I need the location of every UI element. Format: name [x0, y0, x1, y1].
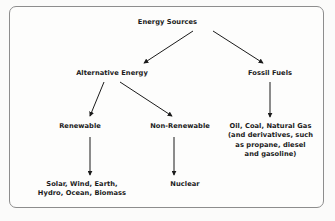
renewable-detail-line-1: Solar, Wind, Earth, — [24, 180, 140, 189]
diagram-canvas: Energy Sources Alternative Energy Fossil… — [0, 0, 335, 221]
fossil-detail-line-1: Oil, Coal, Natural Gas — [222, 122, 319, 131]
node-fossil-fuels: Fossil Fuels — [218, 69, 322, 78]
fossil-detail-line-3: as propane, diesel — [222, 141, 319, 150]
renewable-detail-line-2: Hydro, Ocean, Biomass — [24, 189, 140, 198]
node-label-alternative-energy: Alternative Energy — [46, 69, 178, 78]
node-label-renewable: Renewable — [32, 122, 128, 131]
node-nuclear: Nuclear — [140, 180, 230, 189]
node-alternative-energy: Alternative Energy — [46, 69, 178, 78]
node-renewable: Renewable — [32, 122, 128, 131]
node-label-fossil-fuels: Fossil Fuels — [218, 69, 322, 78]
node-label-non-renewable: Non-Renewable — [128, 122, 232, 131]
node-non-renewable: Non-Renewable — [128, 122, 232, 131]
node-label-nuclear: Nuclear — [140, 180, 230, 189]
node-label-energy-sources: Energy Sources — [0, 18, 335, 27]
fossil-detail-line-4: and gasoline) — [222, 150, 319, 159]
fossil-detail-line-2: (and derivatives, such — [222, 131, 319, 140]
node-renewable-examples: Solar, Wind, Earth, Hydro, Ocean, Biomas… — [24, 180, 140, 199]
diagram-border — [9, 6, 324, 208]
node-energy-sources: Energy Sources — [0, 18, 335, 27]
node-fossil-fuel-examples: Oil, Coal, Natural Gas (and derivatives,… — [222, 122, 319, 159]
